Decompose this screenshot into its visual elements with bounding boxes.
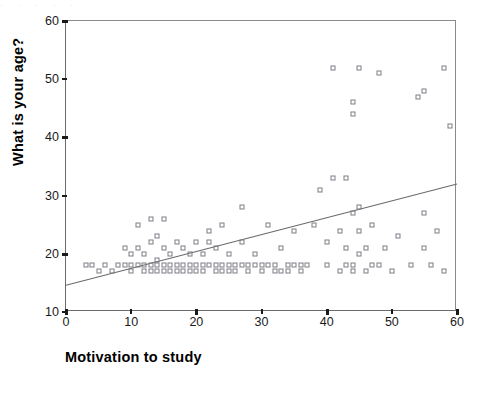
data-point: [435, 228, 440, 233]
data-point: [148, 216, 153, 221]
data-point: [109, 269, 114, 274]
data-point: [226, 263, 231, 268]
data-point: [298, 263, 303, 268]
data-point: [194, 263, 199, 268]
data-point: [226, 251, 231, 256]
data-point: [174, 269, 179, 274]
data-point: [207, 228, 212, 233]
data-point: [370, 222, 375, 227]
data-point: [370, 263, 375, 268]
y-tick: [62, 78, 67, 80]
data-point: [363, 245, 368, 250]
data-point: [168, 251, 173, 256]
y-tick-label: 40: [45, 130, 59, 144]
data-point: [350, 112, 355, 117]
data-point: [168, 263, 173, 268]
data-point: [441, 269, 446, 274]
data-point: [239, 263, 244, 268]
data-point: [220, 263, 225, 268]
data-point: [246, 263, 251, 268]
data-point: [90, 263, 95, 268]
data-point: [331, 65, 336, 70]
data-point: [285, 263, 290, 268]
data-point: [187, 269, 192, 274]
data-point: [324, 240, 329, 245]
data-point: [213, 269, 218, 274]
x-tick: [391, 309, 393, 314]
data-point: [181, 245, 186, 250]
data-point: [344, 263, 349, 268]
plot-area: 1020304050600102030405060: [65, 20, 456, 311]
data-point: [148, 240, 153, 245]
y-tick: [62, 20, 68, 23]
data-point: [220, 269, 225, 274]
data-point: [148, 269, 153, 274]
y-tick: [62, 253, 68, 256]
data-point: [272, 269, 277, 274]
y-tick-label: 20: [45, 247, 59, 261]
data-point: [122, 263, 127, 268]
data-point: [181, 269, 186, 274]
data-point: [161, 216, 166, 221]
data-point: [337, 269, 342, 274]
data-point: [103, 263, 108, 268]
data-point: [441, 65, 446, 70]
data-point: [415, 94, 420, 99]
data-point: [422, 211, 427, 216]
data-point: [161, 269, 166, 274]
data-point: [428, 263, 433, 268]
data-point: [239, 240, 244, 245]
data-point: [311, 222, 316, 227]
data-point: [357, 65, 362, 70]
x-tick-label: 30: [255, 315, 269, 329]
data-point: [376, 71, 381, 76]
data-point: [448, 123, 453, 128]
data-point: [207, 263, 212, 268]
data-point: [226, 269, 231, 274]
data-point: [357, 251, 362, 256]
data-point: [96, 269, 101, 274]
data-point: [363, 269, 368, 274]
data-point: [233, 263, 238, 268]
data-point: [376, 263, 381, 268]
y-tick: [62, 195, 67, 197]
x-tick: [261, 309, 263, 314]
data-point: [187, 251, 192, 256]
data-point: [213, 263, 218, 268]
x-tick-label: 10: [124, 315, 138, 329]
data-point: [396, 234, 401, 239]
data-point: [409, 263, 414, 268]
data-point: [129, 269, 134, 274]
data-point: [187, 263, 192, 268]
data-point: [252, 263, 257, 268]
data-point: [135, 222, 140, 227]
data-point: [233, 269, 238, 274]
data-point: [213, 245, 218, 250]
data-point: [246, 269, 251, 274]
scatter-plot-figure: · · · · · 1020304050600102030405060 Moti…: [0, 0, 480, 393]
x-tick-label: 0: [63, 315, 70, 329]
data-point: [350, 263, 355, 268]
data-point: [194, 240, 199, 245]
data-point: [200, 263, 205, 268]
data-point: [181, 263, 186, 268]
data-point: [142, 269, 147, 274]
data-point: [116, 263, 121, 268]
data-point: [129, 263, 134, 268]
x-tick-label: 20: [189, 315, 203, 329]
data-point: [350, 269, 355, 274]
data-point: [272, 263, 277, 268]
data-point: [155, 257, 160, 262]
data-point: [337, 228, 342, 233]
data-point: [155, 263, 160, 268]
data-point: [266, 222, 271, 227]
data-point: [135, 245, 140, 250]
data-point: [142, 251, 147, 256]
data-point: [350, 100, 355, 105]
data-point: [324, 263, 329, 268]
data-point: [292, 263, 297, 268]
page-top-artifact: · · · · ·: [0, 0, 480, 10]
x-tick: [130, 309, 132, 314]
data-point: [259, 263, 264, 268]
data-point: [220, 222, 225, 227]
